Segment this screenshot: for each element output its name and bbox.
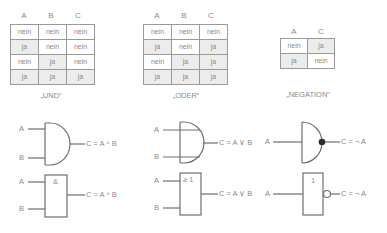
and-curved-output: C = A ^ B xyxy=(86,139,117,148)
not-box-symbol: 1 xyxy=(311,176,315,185)
or-box-output: C = A ∨ B xyxy=(219,189,252,198)
not-gate-box-icon xyxy=(273,173,340,215)
or-box-input-b: B xyxy=(154,203,159,212)
logic-gates-diagram xyxy=(0,0,387,233)
or-box-symbol: ≥ 1 xyxy=(183,175,193,184)
and-box-output: C = A ^ B xyxy=(86,190,117,199)
and-box-input-b: B xyxy=(19,204,24,213)
or-curved-output: C = A ∨ B xyxy=(219,138,252,147)
or-gate-curved-icon xyxy=(163,122,218,163)
and-curved-input-a: A xyxy=(19,124,24,133)
not-gate-curved-icon xyxy=(273,122,340,163)
not-curved-input-a: A xyxy=(265,137,270,146)
not-box-output: C = ¬ A xyxy=(341,189,366,198)
and-box-symbol: & xyxy=(53,177,58,186)
or-curved-input-b: B xyxy=(154,152,159,161)
and-box-input-a: A xyxy=(19,177,24,186)
not-curved-output: C = ¬ A xyxy=(341,137,366,146)
negation-dot-icon xyxy=(319,139,326,146)
or-box-input-a: A xyxy=(154,176,159,185)
not-box-input-a: A xyxy=(265,189,270,198)
and-gate-curved-icon xyxy=(28,123,85,165)
or-curved-input-a: A xyxy=(154,125,159,134)
and-curved-input-b: B xyxy=(19,153,24,162)
